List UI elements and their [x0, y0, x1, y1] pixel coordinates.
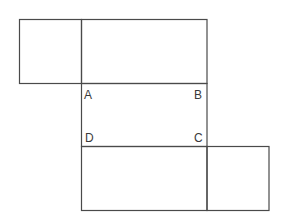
face-top-rect — [82, 20, 208, 84]
face-bottom-right-square — [207, 147, 269, 211]
vertex-label-b: B — [194, 88, 202, 102]
vertex-label-d: D — [85, 131, 94, 145]
cube-net-diagram: A B D C — [0, 0, 285, 216]
face-top-left-square — [20, 20, 82, 84]
face-middle-abcd — [82, 84, 208, 147]
vertex-label-c: C — [194, 131, 203, 145]
vertex-label-a: A — [84, 88, 92, 102]
face-bottom-rect — [82, 147, 208, 211]
